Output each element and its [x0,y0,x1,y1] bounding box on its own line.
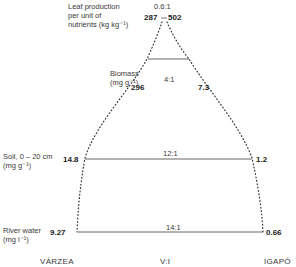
igapo-axis-label: IGAPÓ [264,257,291,266]
ratio-axis-label: V:I [160,257,170,266]
river-water-varzea-value: 9.27 [50,228,66,237]
varzea-curve [77,22,162,232]
river-water-label: River water (mg l⁻¹) [3,226,41,244]
leaf-production-label: Leaf production per unit of nutrients (k… [68,2,128,29]
soil-varzea-value: 14.8 [63,155,79,164]
varzea-axis-label: VÁRZEA [40,257,74,266]
leaf-production-varzea-value: 287 [144,13,157,22]
diagram-lines [0,0,296,267]
river-water-ratio: 14:1 [166,223,181,232]
leaf-production-ratio: 0.6:1 [154,2,171,11]
soil-ratio: 12:1 [163,149,178,158]
biomass-ratio: 4:1 [164,75,174,84]
igapo-curve [167,22,263,232]
biomass-igapo-value: 7.3 [198,83,209,92]
leaf-production-igapo-value: 502 [168,13,181,22]
river-water-igapo-value: 0.66 [266,228,282,237]
soil-label: Soil, 0 – 20 cm (mg g⁻¹) [3,152,53,170]
biomass-varzea-value: 296 [131,83,144,92]
soil-igapo-value: 1.2 [256,155,267,164]
